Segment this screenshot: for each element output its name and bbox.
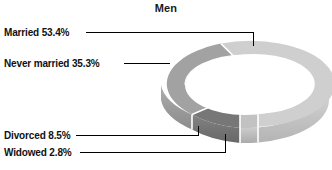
leader-line-widowed xyxy=(80,134,225,152)
ring-pie-chart: Men xyxy=(0,0,332,170)
slice-label-divorced: Divorced 8.5% xyxy=(4,130,70,141)
slice-label-widowed: Widowed 2.8% xyxy=(4,147,72,158)
leader-line-divorced xyxy=(76,126,198,135)
slice-label-married: Married 53.4% xyxy=(4,27,69,38)
slice-label-never-married: Never married 35.3% xyxy=(4,58,100,69)
ring-wall-widowed xyxy=(240,127,258,143)
ring-graphic xyxy=(0,0,332,170)
